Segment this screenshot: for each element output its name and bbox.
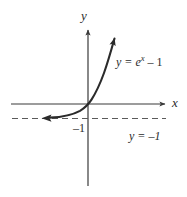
asymptote-equation-label: y = –1 (129, 130, 160, 142)
curve-equation-prefix: y = e (116, 55, 141, 69)
x-axis-label: x (172, 96, 178, 109)
y-axis-label: y (81, 9, 87, 22)
exponential-function-graph: y x y = ex – 1 y = –1 –1 (0, 0, 187, 197)
curve-equation-label: y = ex – 1 (116, 54, 163, 68)
y-intercept-tick-label: –1 (73, 122, 85, 134)
plot-canvas (0, 0, 187, 197)
exponential-curve (50, 39, 115, 118)
curve-equation-suffix: – 1 (145, 55, 163, 69)
